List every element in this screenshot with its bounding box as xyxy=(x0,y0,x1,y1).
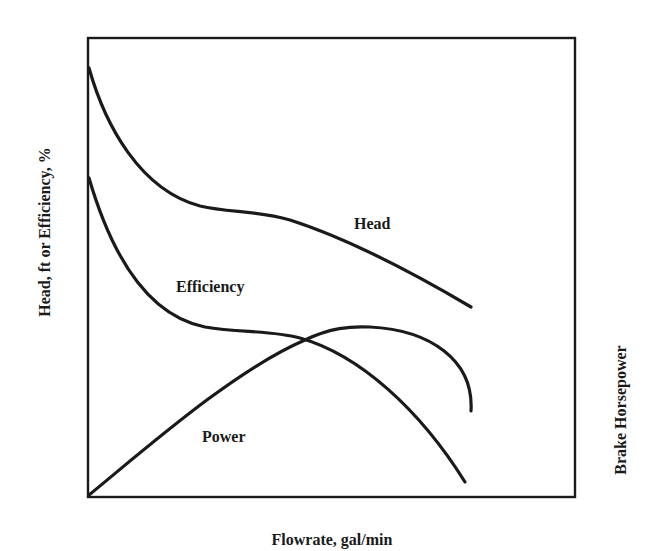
plot-frame xyxy=(88,38,575,497)
x-axis-label: Flowrate, gal/min xyxy=(272,531,393,549)
y-axis-right-label: Brake Horsepower xyxy=(612,345,630,474)
y-axis-left-label: Head, ft or Efficiency, % xyxy=(36,147,54,316)
pump-performance-chart: Head Efficiency Power Flowrate, gal/min … xyxy=(0,0,655,551)
efficiency-curve-label: Efficiency xyxy=(176,278,244,296)
head-curve-label: Head xyxy=(354,215,391,232)
power-curve xyxy=(89,327,471,495)
head-curve xyxy=(89,68,471,307)
power-curve-label: Power xyxy=(202,428,246,445)
efficiency-curve xyxy=(89,178,465,482)
